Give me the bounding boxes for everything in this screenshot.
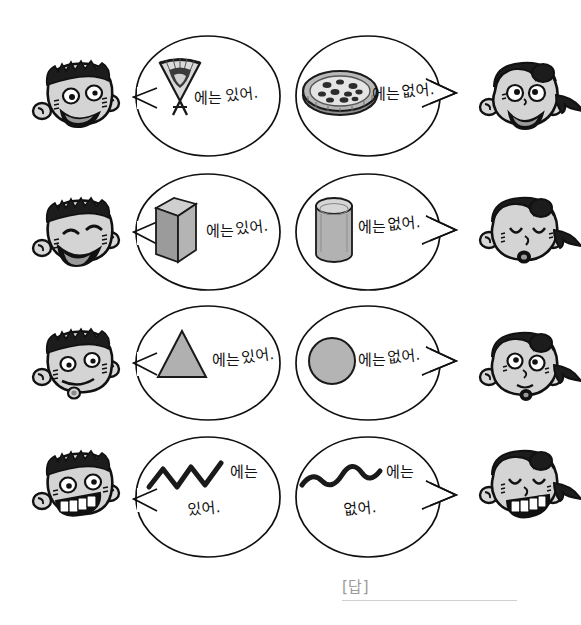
speech-bubble-row3-right: 에는 없어.	[286, 303, 438, 433]
speaker-face-boy-row4	[28, 445, 124, 529]
speaker-face-boy-row2	[28, 190, 124, 274]
answer-label: [답]	[342, 578, 369, 596]
object-pizza	[303, 71, 377, 115]
bubble-text-row2-right-verb: 없어.	[387, 213, 421, 234]
bubble-text-row4-left-verb: 있어.	[187, 498, 221, 519]
speaker-face-boy-row1	[28, 53, 124, 137]
object-rectangular-prism	[156, 198, 196, 262]
bubble-text-row4-right-particle: 에는	[386, 463, 414, 481]
dialogue-row-4: 에는 있어. 에는 없어.	[0, 433, 581, 568]
bubble-text-row2-right-particle: 에는	[358, 218, 386, 236]
speaker-face-girl-row1	[477, 55, 573, 139]
bubble-text-row3-right-verb: 없어.	[387, 346, 421, 367]
bubble-text-row1-right-particle: 에는	[372, 85, 400, 103]
bubble-text-row1-left-particle: 에는	[194, 89, 222, 107]
dialogue-row-1: 에는 있어.	[0, 25, 581, 170]
speech-bubble-row4-right: 에는 없어.	[286, 433, 438, 568]
bubble-text-row4-left-particle: 에는	[230, 463, 258, 481]
bubble-text-row4-right-verb: 없어.	[343, 498, 377, 519]
speech-bubble-row2-left: 에는 있어.	[126, 170, 278, 302]
bubble-text-row3-left-particle: 에는	[212, 351, 240, 369]
speech-bubble-row2-right: 에는 없어.	[286, 170, 438, 302]
speaker-face-girl-row3	[477, 327, 573, 411]
object-cylinder	[316, 198, 352, 262]
bubble-text-row3-right-particle: 에는	[358, 351, 386, 369]
speaker-face-boy-row3	[28, 323, 124, 407]
object-circle	[309, 338, 355, 384]
speech-bubble-row1-right: 에는 없어.	[286, 31, 438, 167]
bubble-text-row1-right-verb: 없어.	[401, 80, 435, 101]
answer-line: [답]	[342, 575, 517, 601]
worksheet-canvas: 에는 있어.	[0, 0, 581, 625]
dialogue-row-3: 에는 있어. 에는 없어.	[0, 303, 581, 433]
bubble-text-row2-left-verb: 있어.	[235, 217, 269, 238]
speech-bubble-row3-left: 에는 있어.	[126, 303, 278, 433]
bubble-text-row1-left-verb: 있어.	[225, 84, 259, 105]
speaker-face-girl-row4	[477, 447, 573, 531]
speech-bubble-row4-left: 에는 있어.	[126, 433, 278, 568]
speaker-face-girl-row2	[477, 194, 573, 278]
dialogue-row-2: 에는 있어. 에는 없어.	[0, 170, 581, 305]
speech-bubble-row1-left: 에는 있어.	[126, 31, 278, 167]
bubble-text-row2-left-particle: 에는	[206, 222, 234, 240]
